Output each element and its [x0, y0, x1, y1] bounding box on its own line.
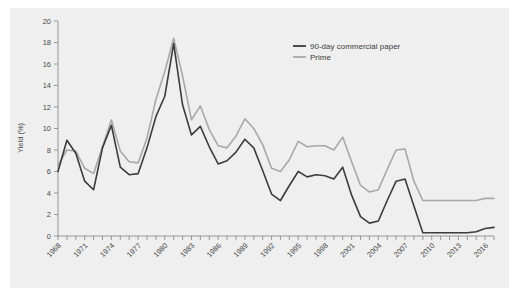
y-axis-tick-label: 2	[47, 210, 51, 219]
y-axis-tick-label: 8	[47, 146, 51, 155]
y-axis-tick-label: 20	[43, 17, 51, 26]
x-axis-tick-label: 1986	[205, 241, 223, 259]
x-axis-tick-label: 1971	[71, 241, 89, 259]
x-axis-tick-label: 2010	[418, 241, 436, 259]
series-line	[58, 44, 494, 233]
x-axis: 1968197119741977198019831986198919921995…	[45, 236, 494, 259]
line-chart-svg: 02468101214161820 1968197119741977198019…	[10, 8, 509, 288]
x-axis-tick-label: 2004	[365, 241, 383, 259]
x-axis-tick-label: 2016	[472, 241, 490, 259]
x-axis-tick-label: 2007	[392, 241, 410, 259]
x-axis-tick-label: 1992	[258, 241, 276, 259]
y-axis-tick-label: 16	[43, 60, 51, 69]
legend-label: Prime	[310, 53, 331, 62]
x-axis-tick-label: 1977	[125, 241, 143, 259]
x-axis-tick-label: 1989	[232, 241, 250, 259]
data-series-group	[58, 38, 494, 233]
chart-legend: 90-day commercial paperPrime	[293, 42, 401, 62]
x-axis-tick-label: 2001	[338, 241, 356, 259]
y-axis-title: Yield (%)	[16, 122, 25, 153]
chart-panel: 02468101214161820 1968197119741977198019…	[10, 8, 509, 288]
x-axis-tick-label: 1998	[312, 241, 330, 259]
y-axis-tick-label: 12	[43, 103, 51, 112]
y-axis-tick-label: 14	[43, 81, 51, 90]
y-axis: 02468101214161820	[43, 17, 58, 241]
chart-screenshot: 02468101214161820 1968197119741977198019…	[0, 0, 519, 296]
y-axis-tick-label: 4	[47, 189, 51, 198]
x-axis-tick-label: 1968	[45, 241, 63, 259]
y-axis-tick-label: 6	[47, 167, 51, 176]
x-axis-tick-label: 1983	[178, 241, 196, 259]
x-axis-tick-label: 2013	[445, 241, 463, 259]
x-axis-tick-label: 1995	[285, 241, 303, 259]
y-axis-tick-label: 0	[47, 232, 51, 241]
x-axis-tick-label: 1980	[152, 241, 170, 259]
legend-label: 90-day commercial paper	[310, 42, 401, 51]
y-axis-tick-label: 10	[43, 124, 51, 133]
y-axis-tick-label: 18	[43, 38, 51, 47]
series-line	[58, 38, 494, 200]
x-axis-tick-label: 1974	[98, 241, 116, 259]
